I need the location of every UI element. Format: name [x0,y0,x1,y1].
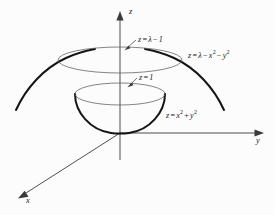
axis-label-z: z [129,8,132,16]
leader-lower-plane [128,78,138,87]
label-upper-surface-minus-2: − [216,51,223,60]
axis-group-y [120,129,264,136]
diagram-svg [0,0,274,215]
upper-paraboloid-left-branch [16,49,95,110]
label-upper-surface-equation: z=λ−x2−y2 [188,52,230,60]
leader-arrow-upper-plane [125,46,131,51]
label-lower-plane: z=1 [139,74,154,82]
label-upper-plane-minus: − [152,35,159,44]
axis-label-y: y [256,137,260,145]
arrow-up-icon [116,11,123,21]
label-lower-surface-equation: z=x2+y2 [166,112,197,120]
label-upper-plane: z=λ−1 [138,36,163,44]
x-axis-line [26,133,120,193]
axis-group-z [116,11,123,160]
figure-canvas: z=λ−1 z=1 z=λ−x2−y2 z=x2+y2 z y x [0,0,274,215]
label-upper-surface-y-exponent: 2 [227,49,230,55]
label-upper-surface-minus-1: − [202,51,209,60]
label-upper-plane-one: 1 [159,35,163,44]
axis-label-x: x [26,197,30,205]
leader-upper-plane [125,40,137,50]
axis-group-x [18,133,120,199]
label-lower-surface-y-exponent: 2 [194,109,197,115]
label-lower-plane-rhs: 1 [149,73,153,82]
